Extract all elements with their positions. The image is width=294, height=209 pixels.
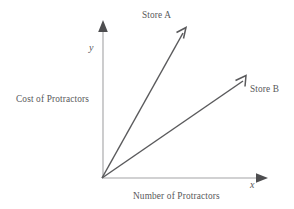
store-a-label: Store A (142, 10, 171, 21)
store-a-vector-line (102, 33, 183, 178)
x-axis-label: Number of Protractors (133, 191, 220, 202)
diagram-canvas: Store A Store B Cost of Protractors Numb… (0, 0, 294, 209)
y-axis-label: Cost of Protractors (16, 94, 89, 105)
store-b-vector-line (102, 81, 243, 178)
store-b-label: Store B (250, 84, 279, 95)
y-axis-arrowhead-icon (98, 20, 108, 32)
x-axis-arrowhead-icon (256, 173, 268, 183)
y-axis-variable-label: y (89, 42, 93, 53)
x-axis-variable-label: x (250, 179, 254, 190)
